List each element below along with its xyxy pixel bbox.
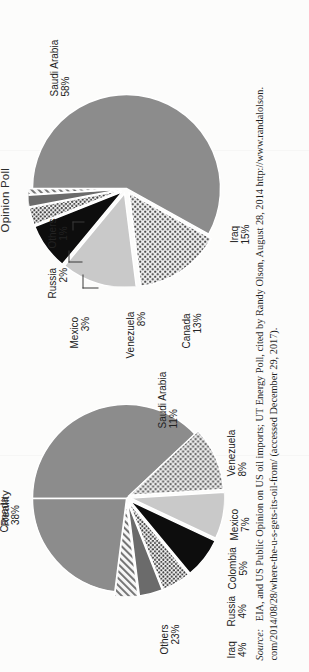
reality-label-colombia: Colombia 5% xyxy=(226,547,248,589)
leader-line-others xyxy=(72,221,84,222)
opinion-label-mexico: Mexico 3% xyxy=(68,316,90,348)
reality-title: Reality xyxy=(0,489,10,526)
source-text-line1: EIA, and US Public Opinion on US oil imp… xyxy=(253,87,264,621)
reality-label-russia: Russia 4% xyxy=(225,595,247,626)
reality-pie-svg xyxy=(28,400,224,596)
reality-label-others: Others 23% xyxy=(158,624,180,654)
leader-line-mexico xyxy=(82,287,98,288)
figure-page: Canada 38% Saudi Arabia 11% Venezuela 8%… xyxy=(0,0,309,672)
slice-others xyxy=(32,498,126,591)
opinion-label-canada: Canada 13% xyxy=(180,313,202,348)
reality-label-iraq: Iraq 4% xyxy=(225,641,247,658)
reality-label-saudi: Saudi Arabia 11% xyxy=(156,371,178,428)
opinion-label-others: Others 1% xyxy=(46,218,68,248)
opinion-label-venezuela: Venezuela 8% xyxy=(124,311,146,358)
reality-label-venezuela: Venezuela 8% xyxy=(225,429,247,476)
figure-source-caption: Source: EIA, and US Public Opinion on US… xyxy=(252,10,279,660)
rotated-figure-stage: Canada 38% Saudi Arabia 11% Venezuela 8%… xyxy=(0,0,309,672)
leader-line-russia xyxy=(68,261,82,262)
leader-line-mexico-h xyxy=(82,274,83,288)
leader-line-russia-h xyxy=(68,250,69,262)
reality-label-mexico: Mexico 7% xyxy=(228,508,250,540)
leader-line-others-h xyxy=(72,221,73,230)
reality-pie-chart: Canada 38% Saudi Arabia 11% Venezuela 8%… xyxy=(28,400,224,596)
opinion-poll-title: Opinion Poll xyxy=(0,168,10,232)
source-label: Source: xyxy=(253,628,264,660)
source-text-line2: com/2014/08/28/where-the-u-s-gets-its-oi… xyxy=(266,10,280,660)
opinion-label-russia: Russia 2% xyxy=(46,267,68,298)
opinion-poll-pie-svg xyxy=(28,90,224,286)
opinion-label-saudi: Saudi Arabia 58% xyxy=(48,39,70,96)
opinion-poll-pie-chart: Saudi Arabia 58% Iraq 15% Canada 13% Ven… xyxy=(28,90,224,286)
opinion-label-iraq: Iraq 15% xyxy=(228,224,250,244)
